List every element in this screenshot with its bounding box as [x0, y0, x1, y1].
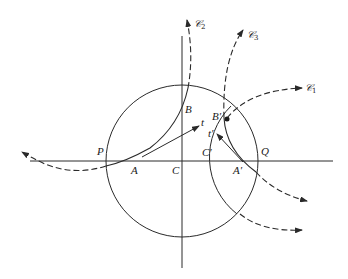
second-circle-arc	[209, 106, 237, 214]
label-c: C	[172, 165, 179, 176]
label-q: Q	[261, 146, 269, 157]
tangent-vector-t-prime	[217, 134, 243, 162]
curve-c2-dashed	[187, 20, 191, 88]
diagram-canvas: P A C B t C′ A′ Q B′ t′ 𝒞2 𝒞3 𝒞1	[0, 0, 348, 279]
curve-c3-symbol: 𝒞	[247, 29, 254, 40]
label-a: A	[131, 165, 138, 176]
label-p: P	[97, 146, 104, 157]
point-b-prime-dot	[225, 117, 230, 122]
diagram-svg	[0, 0, 348, 279]
label-b-prime: B′	[212, 111, 221, 122]
label-a-prime: A′	[233, 165, 242, 176]
curve-c3-lower-dashed	[256, 172, 307, 201]
tangent-vector-t	[142, 126, 199, 157]
label-curve-c3: 𝒞3	[247, 30, 258, 42]
curve-c1-dashed	[227, 88, 302, 118]
label-curve-c2: 𝒞2	[194, 19, 205, 31]
curve-c1-subscript: 1	[312, 87, 316, 95]
curve-c2-symbol: 𝒞	[194, 18, 201, 29]
curve-lower-dashed	[240, 214, 302, 230]
label-t: t	[201, 117, 204, 128]
curve-c3-subscript: 3	[254, 34, 258, 42]
curve-c2-subscript: 2	[201, 23, 205, 31]
label-c-prime: C′	[202, 147, 212, 158]
label-b: B	[185, 104, 192, 115]
curve-c1-symbol: 𝒞	[305, 82, 312, 93]
label-t-prime: t′	[208, 128, 213, 139]
label-curve-c1: 𝒞1	[305, 83, 316, 95]
